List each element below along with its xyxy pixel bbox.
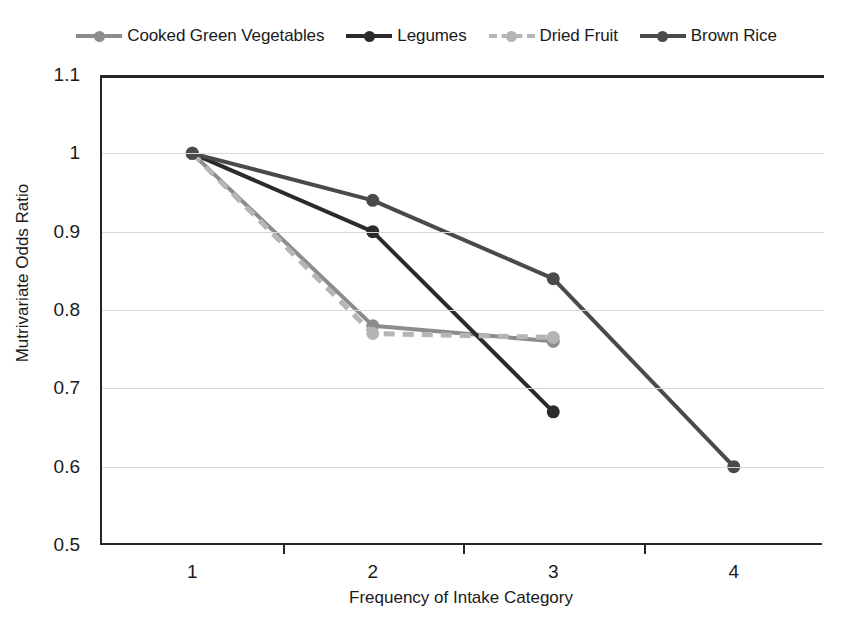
gridline <box>102 388 824 389</box>
legend-item-cooked-green-vegetables[interactable]: Cooked Green Vegetables <box>76 27 324 45</box>
legend-swatch-icon <box>76 29 122 43</box>
legend-label: Brown Rice <box>691 27 777 45</box>
legend-marker-icon <box>506 31 517 42</box>
gridline <box>102 153 824 154</box>
legend-swatch-icon <box>489 29 535 43</box>
data-point <box>547 405 560 418</box>
data-point <box>547 272 560 285</box>
data-point <box>547 331 560 344</box>
gridline <box>102 75 824 78</box>
plot-area: 1.110.90.80.70.60.51234 <box>100 75 822 545</box>
x-tick-label: 2 <box>343 561 403 583</box>
x-tick-mark <box>283 545 285 554</box>
y-axis-title-text: Mutrivariate Odds Ratio <box>13 183 33 362</box>
y-tick-label: 0.9 <box>10 221 80 243</box>
gridline <box>102 232 824 233</box>
legend-label: Dried Fruit <box>540 27 618 45</box>
data-point <box>366 194 379 207</box>
x-axis-title: Frequency of Intake Category <box>100 588 822 608</box>
x-tick-mark <box>644 545 646 554</box>
legend-item-brown-rice[interactable]: Brown Rice <box>640 27 777 45</box>
y-tick-label: 0.5 <box>10 534 80 556</box>
legend-swatch-icon <box>640 29 686 43</box>
y-tick-label: 1.1 <box>10 64 80 86</box>
legend-marker-icon <box>657 31 668 42</box>
legend-item-dried-fruit[interactable]: Dried Fruit <box>489 27 618 45</box>
legend-label: Legumes <box>397 27 466 45</box>
plot-wrapper: 1.110.90.80.70.60.51234 <box>100 75 822 545</box>
series-line-legumes <box>192 153 553 412</box>
legend-marker-icon <box>94 31 105 42</box>
x-tick-mark <box>463 545 465 554</box>
line-chart: Cooked Green VegetablesLegumesDried Frui… <box>0 0 853 632</box>
data-point <box>366 327 379 340</box>
x-tick-label: 1 <box>162 561 222 583</box>
series-line-cooked-green-vegetables <box>192 153 553 341</box>
x-tick-label: 4 <box>704 561 764 583</box>
x-tick-label: 3 <box>523 561 583 583</box>
y-tick-label: 0.6 <box>10 456 80 478</box>
legend-item-legumes[interactable]: Legumes <box>346 27 466 45</box>
y-tick-label: 0.8 <box>10 299 80 321</box>
y-tick-label: 1 <box>10 142 80 164</box>
legend-marker-icon <box>364 31 375 42</box>
chart-legend: Cooked Green VegetablesLegumesDried Frui… <box>0 20 853 52</box>
gridline <box>102 467 824 468</box>
legend-label: Cooked Green Vegetables <box>127 27 324 45</box>
legend-swatch-icon <box>346 29 392 43</box>
y-tick-label: 0.7 <box>10 377 80 399</box>
gridline <box>102 310 824 311</box>
